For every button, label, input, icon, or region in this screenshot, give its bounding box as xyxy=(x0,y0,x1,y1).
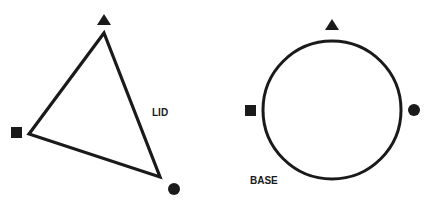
circle-marker-icon xyxy=(168,183,180,195)
circle-marker-icon xyxy=(408,104,420,116)
base-label: BASE xyxy=(250,175,278,186)
square-marker-icon xyxy=(245,105,256,116)
lid-triangle-outline xyxy=(29,33,160,177)
triangle-marker-icon xyxy=(97,14,111,25)
triangle-marker-icon xyxy=(325,19,339,30)
base-circle-outline xyxy=(263,41,401,179)
base-diagram: BASE xyxy=(245,19,420,186)
diagram-canvas: LID BASE xyxy=(0,0,431,206)
lid-label: LID xyxy=(152,107,168,118)
square-marker-icon xyxy=(11,127,22,138)
lid-diagram: LID xyxy=(11,14,180,195)
